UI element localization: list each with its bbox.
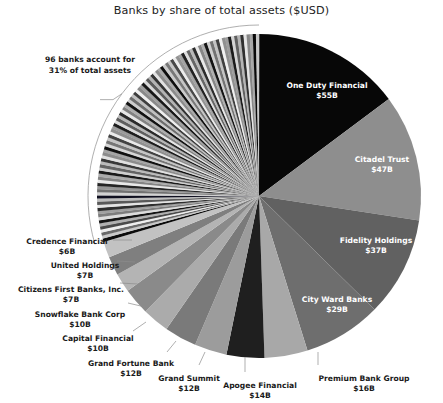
slice-value-label: $12B xyxy=(178,384,200,393)
slice-value-label: $29B xyxy=(326,305,348,314)
slice-name-label: Grand Summit xyxy=(158,374,220,383)
label-leader-line xyxy=(133,322,146,331)
slice-name-label: Premium Bank Group xyxy=(319,374,411,383)
grouped-callout-line-2: 31% of total assets xyxy=(49,66,132,75)
label-leader-line xyxy=(199,352,205,365)
slice-value-label: $55B xyxy=(316,91,338,100)
label-leader-line xyxy=(167,341,176,352)
slice-value-label: $7B xyxy=(63,295,80,304)
slice-value-label: $47B xyxy=(371,165,393,174)
slice-name-label: Credence Financial xyxy=(26,237,107,246)
slice-value-label: $14B xyxy=(249,391,271,400)
slice-value-label: $37B xyxy=(365,246,387,255)
slice-name-label: Capital Financial xyxy=(62,334,133,343)
slice-value-label: $6B xyxy=(59,247,76,256)
slice-name-label: United Holdings xyxy=(51,261,120,270)
slice-name-label: Snowflake Bank Corp xyxy=(35,310,126,319)
slice-value-label: $16B xyxy=(353,384,375,393)
pie-chart-figure: Banks by share of total assets ($USD) On… xyxy=(0,0,443,403)
slice-name-label: Apogee Financial xyxy=(223,381,296,390)
slice-name-label: City Ward Banks xyxy=(302,295,373,304)
slice-value-label: $7B xyxy=(77,271,94,280)
slice-value-label: $10B xyxy=(87,344,109,353)
grouped-callout-line-1: 96 banks account for xyxy=(45,55,135,64)
slice-value-label: $10B xyxy=(69,320,91,329)
slice-value-label: $12B xyxy=(120,369,142,378)
slice-name-label: One Duty Financial xyxy=(286,81,367,90)
pie-slices-group xyxy=(97,34,421,358)
slice-name-label: Citadel Trust xyxy=(355,155,410,164)
slice-name-label: Fidelity Holdings xyxy=(340,236,413,245)
pie-chart-svg: One Duty Financial$55BCitadel Trust$47BF… xyxy=(0,0,443,403)
slice-name-label: Grand Fortune Bank xyxy=(88,359,175,368)
slice-name-label: Citizens First Banks, Inc. xyxy=(18,285,124,294)
